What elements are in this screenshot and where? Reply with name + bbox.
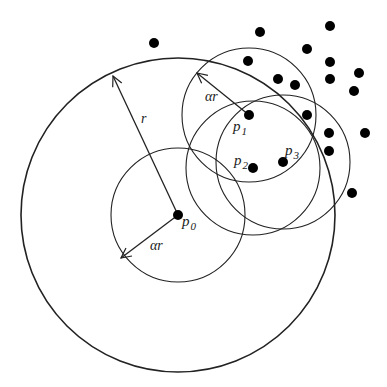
node-point [273,74,283,84]
node-point [290,80,300,90]
node-label-p0: p0 [181,213,197,232]
node-p1 [244,110,254,120]
node-point [302,110,312,120]
range-circles [21,48,350,372]
node-point [302,44,312,54]
alpha-r-label-0: αr [205,89,218,104]
node-point [347,188,357,198]
node-p2 [248,163,258,173]
alpha-r-label-1: αr [150,238,163,253]
node-point [325,74,335,84]
coverage-diagram: p0p1p2p3rαrαr [0,0,387,387]
radius-label: r [141,111,147,126]
diagram-canvas: p0p1p2p3rαrαr [0,0,387,387]
node-point [243,56,253,66]
node-label-p3: p3 [284,142,300,161]
node-point [360,128,370,138]
node-point [325,57,335,67]
node-point [354,68,364,78]
node-point [324,146,334,156]
node-point [325,21,335,31]
node-p3 [278,157,288,167]
node-point [349,86,359,96]
node-label-p2: p2 [233,152,249,171]
radius-r-arrow [113,76,178,215]
node-point [324,128,334,138]
node-point [255,27,265,37]
node-label-p1: p1 [232,118,247,137]
node-point [149,38,159,48]
